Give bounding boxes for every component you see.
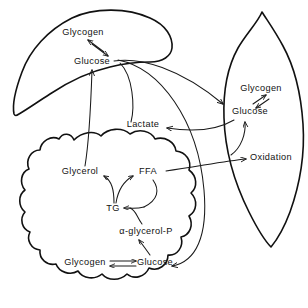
flow-oxidation-to-muscle-glucose [231, 122, 245, 155]
label-oxidation: Oxidation [250, 152, 292, 162]
label-ffa: FFA [139, 166, 157, 176]
reaction-tg-lipolysis-branch [104, 176, 133, 203]
label-muscle-glycogen: Glycogen [240, 83, 282, 93]
reaction-lines [85, 40, 269, 266]
label-tg: TG [106, 203, 119, 213]
metabolic-pathway-figure: Glycogen Glucose Glycogen Glucose Oxidat… [0, 0, 308, 308]
label-adipose-glucose: Glucose [137, 257, 173, 267]
node-labels: Glycogen Glucose Glycogen Glucose Oxidat… [62, 27, 292, 267]
label-alpha-glycerol-p: α-glycerol-P [119, 226, 172, 236]
label-glycerol: Glycerol [62, 166, 99, 176]
reaction-esterification-merge [124, 180, 157, 224]
label-liver-glycogen: Glycogen [62, 27, 104, 37]
flow-ffa-to-oxidation [166, 159, 246, 171]
flow-lactate-to-liver-glucose [120, 63, 133, 122]
organ-outlines [13, 10, 303, 279]
label-adipose-glycogen: Glycogen [64, 257, 106, 267]
flow-glycerol-to-liver-glucose [85, 70, 92, 166]
label-muscle-glucose: Glucose [232, 106, 268, 116]
flow-adipose-glucose-to-alpha-glycerol-p [139, 240, 150, 255]
muscle-outline [224, 12, 304, 247]
label-lactate: Lactate [127, 119, 160, 129]
label-liver-glucose: Glucose [74, 56, 110, 66]
reaction-adipose-glycogen-glucose [110, 261, 136, 266]
reaction-liver-glycogen-glucose [88, 40, 108, 56]
diagram-canvas: Glycogen Glucose Glycogen Glucose Oxidat… [0, 0, 308, 308]
